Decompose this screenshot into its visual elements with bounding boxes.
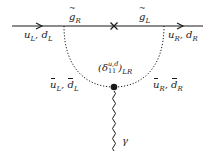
label-mass-insertion: (δu,d11)LR <box>98 62 132 76</box>
label-part: d <box>171 80 177 90</box>
label-part: g <box>69 12 75 22</box>
label-part: , <box>35 29 38 40</box>
label-incoming-quark: uL, dL <box>24 30 53 43</box>
label-part: R <box>193 35 198 43</box>
label-gluino-left: gR <box>69 12 81 25</box>
label-part: u <box>50 80 56 90</box>
label-indices: u,d11 <box>108 61 118 74</box>
label-part: , <box>180 29 183 40</box>
label-part: LR <box>122 68 132 76</box>
label-part: g <box>139 12 145 22</box>
label-part: , <box>61 79 64 90</box>
feynman-diagram: uL, dL uR, dR gR gL (δu,d11)LR uL, dL uR… <box>0 0 217 160</box>
label-photon: γ <box>122 136 128 146</box>
label-squark-right: uR, dR <box>153 80 183 93</box>
label-part: R <box>178 85 183 93</box>
label-gluino-right: gL <box>139 12 150 25</box>
squark-loop <box>64 26 164 87</box>
label-part: 11 <box>108 68 118 75</box>
diagram-canvas <box>0 0 217 160</box>
label-part: , <box>165 79 168 90</box>
vertex-dot-icon <box>111 84 118 91</box>
label-squark-left: uL, dL <box>50 80 79 93</box>
label-part: L <box>48 35 53 43</box>
label-part: γ <box>122 135 128 146</box>
photon-line <box>113 91 116 151</box>
label-part: d <box>67 80 73 90</box>
label-outgoing-quark: uR, dR <box>168 30 198 43</box>
label-part: u <box>153 80 159 90</box>
label-part: R <box>75 17 80 25</box>
label-part: L <box>145 17 150 25</box>
label-part: L <box>74 85 79 93</box>
